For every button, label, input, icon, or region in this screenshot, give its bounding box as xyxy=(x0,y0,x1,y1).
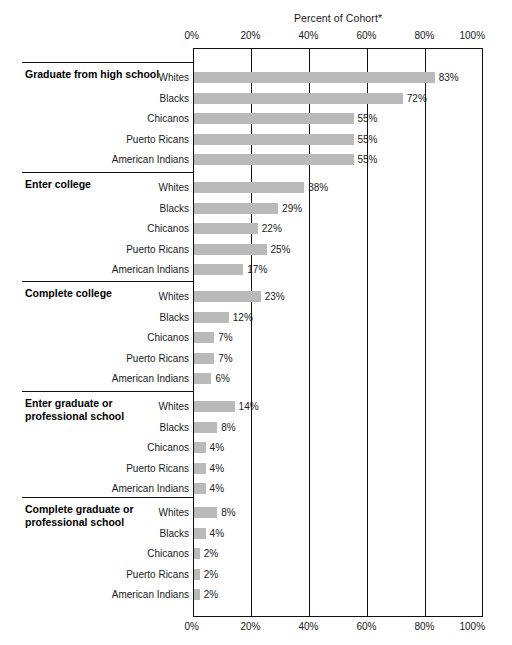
bar xyxy=(194,442,206,453)
chart-row: American Indians6% xyxy=(0,370,512,390)
bar-value-label: 2% xyxy=(204,548,218,559)
chart-row: Blacks29% xyxy=(0,200,512,220)
bar-value-label: 22% xyxy=(262,223,282,234)
x-tick-60: 60% xyxy=(357,30,377,41)
bar xyxy=(194,548,200,559)
row-label-blacks: Blacks xyxy=(40,93,189,104)
bar xyxy=(194,113,354,124)
row-label-blacks: Blacks xyxy=(40,312,189,323)
bar xyxy=(194,134,354,145)
x-tick-60: 60% xyxy=(357,621,377,632)
bar-value-label: 17% xyxy=(247,264,267,275)
bar-value-label: 6% xyxy=(215,373,229,384)
row-label-chicanos: Chicanos xyxy=(40,113,189,124)
chart-row: Whites38% xyxy=(0,179,512,199)
bar-value-label: 4% xyxy=(210,483,224,494)
bar-value-label: 4% xyxy=(210,528,224,539)
chart-row: Chicanos22% xyxy=(0,220,512,240)
chart-row: Blacks72% xyxy=(0,90,512,110)
bar xyxy=(194,72,435,83)
bar-value-label: 83% xyxy=(439,72,459,83)
row-label-whites: Whites xyxy=(40,401,189,412)
bar xyxy=(194,291,261,302)
row-label-chicanos: Chicanos xyxy=(40,548,189,559)
bar xyxy=(194,312,229,323)
chart-row: Whites83% xyxy=(0,69,512,89)
bar xyxy=(194,223,258,234)
bar xyxy=(194,203,278,214)
chart-row: Whites8% xyxy=(0,504,512,524)
group-divider xyxy=(22,62,194,63)
x-tick-80: 80% xyxy=(415,621,435,632)
row-label-american-indians: American Indians xyxy=(40,373,189,384)
row-label-puerto-ricans: Puerto Ricans xyxy=(40,134,189,145)
chart-row: Puerto Ricans4% xyxy=(0,460,512,480)
row-label-whites: Whites xyxy=(40,291,189,302)
bar xyxy=(194,569,200,580)
chart-row: Puerto Ricans25% xyxy=(0,241,512,261)
bar xyxy=(194,182,304,193)
bar-value-label: 55% xyxy=(358,154,378,165)
group-divider xyxy=(22,497,194,498)
bar-value-label: 72% xyxy=(407,93,427,104)
row-label-puerto-ricans: Puerto Ricans xyxy=(40,569,189,580)
bar-value-label: 55% xyxy=(358,113,378,124)
bar xyxy=(194,463,206,474)
chart-group: Enter graduate or professional schoolWhi… xyxy=(0,391,512,501)
bar xyxy=(194,373,211,384)
chart-group: Complete collegeWhites23%Blacks12%Chican… xyxy=(0,281,512,391)
row-label-blacks: Blacks xyxy=(40,528,189,539)
x-tick-20: 20% xyxy=(241,30,261,41)
row-label-whites: Whites xyxy=(40,72,189,83)
bar xyxy=(194,93,403,104)
bar xyxy=(194,264,243,275)
chart-row: Chicanos55% xyxy=(0,110,512,130)
bar xyxy=(194,589,200,600)
row-label-blacks: Blacks xyxy=(40,422,189,433)
chart-row: Chicanos7% xyxy=(0,329,512,349)
bar-value-label: 2% xyxy=(204,569,218,580)
chart-row: American Indians55% xyxy=(0,151,512,171)
x-tick-80: 80% xyxy=(415,30,435,41)
group-divider xyxy=(22,281,194,282)
chart-row: Blacks12% xyxy=(0,309,512,329)
row-label-american-indians: American Indians xyxy=(40,154,189,165)
bar-value-label: 7% xyxy=(218,332,232,343)
row-label-puerto-ricans: Puerto Ricans xyxy=(40,244,189,255)
x-tick-0: 0% xyxy=(185,30,199,41)
row-label-chicanos: Chicanos xyxy=(40,442,189,453)
bar-value-label: 8% xyxy=(221,422,235,433)
x-tick-40: 40% xyxy=(299,30,319,41)
chart-title: Percent of Cohort* xyxy=(193,12,483,24)
chart-row: Whites23% xyxy=(0,288,512,308)
group-divider xyxy=(22,391,194,392)
bar xyxy=(194,332,214,343)
bar-value-label: 4% xyxy=(210,442,224,453)
chart-row: American Indians2% xyxy=(0,586,512,606)
chart-row: Puerto Ricans2% xyxy=(0,566,512,586)
bar xyxy=(194,483,206,494)
bar-value-label: 25% xyxy=(271,244,291,255)
bar-value-label: 55% xyxy=(358,134,378,145)
bar-value-label: 12% xyxy=(233,312,253,323)
bar-value-label: 29% xyxy=(282,203,302,214)
bar xyxy=(194,154,354,165)
row-label-chicanos: Chicanos xyxy=(40,332,189,343)
bar xyxy=(194,422,217,433)
chart-group: Enter collegeWhites38%Blacks29%Chicanos2… xyxy=(0,172,512,282)
chart-row: Chicanos2% xyxy=(0,545,512,565)
row-label-american-indians: American Indians xyxy=(40,589,189,600)
row-label-blacks: Blacks xyxy=(40,203,189,214)
row-label-whites: Whites xyxy=(40,507,189,518)
bar xyxy=(194,507,217,518)
bar-value-label: 38% xyxy=(308,182,328,193)
chart-row: Puerto Ricans55% xyxy=(0,131,512,151)
chart-row: Chicanos4% xyxy=(0,439,512,459)
chart-row: Blacks4% xyxy=(0,525,512,545)
row-label-american-indians: American Indians xyxy=(40,264,189,275)
x-tick-0: 0% xyxy=(185,621,199,632)
chart-row: Whites14% xyxy=(0,398,512,418)
x-tick-20: 20% xyxy=(241,621,261,632)
bar-value-label: 7% xyxy=(218,353,232,364)
bar xyxy=(194,528,206,539)
